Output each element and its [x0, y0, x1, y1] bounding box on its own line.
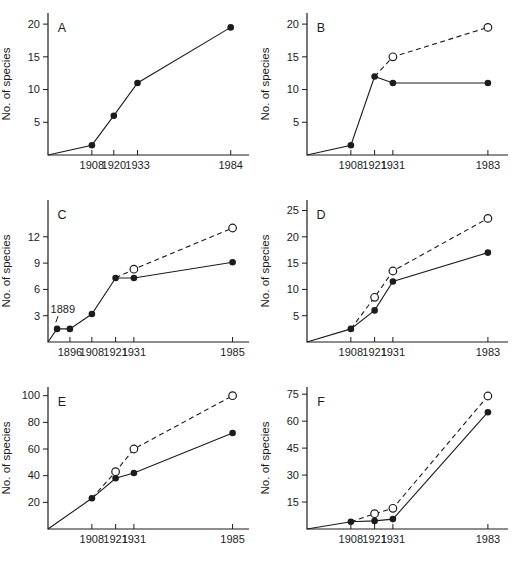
y-axis-label: No. of species	[0, 47, 12, 120]
data-point-filled	[54, 326, 61, 333]
solid-series-line	[307, 412, 488, 529]
data-point-filled	[112, 275, 119, 282]
data-point-filled	[371, 518, 378, 525]
axes	[307, 387, 508, 529]
y-tick-label: 9	[34, 257, 40, 269]
y-tick-label: 5	[292, 116, 298, 128]
x-tick-label: 1908	[338, 159, 362, 171]
data-point-filled	[389, 80, 396, 87]
data-point-filled	[484, 249, 491, 256]
x-tick-label: 1908	[338, 533, 362, 545]
axes	[307, 13, 508, 155]
y-tick-label: 15	[286, 51, 298, 63]
x-tick-label: 1985	[220, 346, 244, 358]
x-tick-label: 1983	[475, 159, 499, 171]
y-tick-label: 5	[34, 116, 40, 128]
data-point-open	[370, 510, 378, 518]
data-point-filled	[484, 409, 491, 416]
solid-series-line	[48, 262, 233, 342]
x-tick-label: 1908	[80, 346, 104, 358]
y-tick-label: 12	[28, 231, 40, 243]
x-tick-label: 1931	[380, 159, 404, 171]
data-point-filled	[89, 495, 96, 502]
data-point-filled	[131, 275, 138, 282]
panel-B-chart: 51015201908192119311983No. of speciesB	[259, 0, 517, 187]
panel-A-chart: 51015201908192019331984No. of speciesA	[0, 0, 258, 187]
panel-letter: D	[316, 208, 325, 222]
panel-letter: E	[58, 395, 66, 409]
data-point-filled	[131, 470, 138, 477]
data-point-open	[389, 53, 397, 61]
solid-series-line	[307, 77, 488, 156]
x-tick-label: 1896	[58, 346, 82, 358]
y-axis-label: No. of species	[259, 234, 271, 307]
axes	[307, 200, 508, 342]
solid-series-line	[307, 253, 488, 342]
data-point-open	[370, 294, 378, 302]
y-tick-label: 3	[34, 310, 40, 322]
x-tick-label: 1931	[380, 533, 404, 545]
data-point-filled	[371, 307, 378, 314]
y-tick-label: 45	[286, 442, 298, 454]
x-tick-label: 1984	[218, 159, 242, 171]
panel-C-cell: 3691218961908192119311985No. of speciesC…	[0, 187, 258, 374]
x-tick-label: 1933	[125, 159, 149, 171]
panel-E-cell: 204060801001908192119311985No. of specie…	[0, 374, 258, 561]
dashed-series-line	[92, 396, 233, 499]
x-tick-label: 1908	[80, 159, 104, 171]
y-tick-label: 15	[28, 51, 40, 63]
y-axis-label: No. of species	[0, 234, 12, 307]
data-point-open	[484, 24, 492, 32]
data-point-filled	[134, 80, 141, 87]
panel-D-chart: 5101520251908192119311983No. of speciesD	[259, 187, 517, 374]
six-panel-species-accumulation-figure: 51015201908192019331984No. of speciesA51…	[0, 0, 517, 561]
solid-series-line	[48, 27, 231, 155]
y-tick-label: 20	[28, 496, 40, 508]
panel-F-chart: 15304560751908192119311983No. of species…	[259, 374, 517, 561]
y-tick-label: 40	[28, 469, 40, 481]
y-tick-label: 6	[34, 283, 40, 295]
panel-letter: C	[57, 208, 66, 222]
annotation-label: 1889	[51, 303, 75, 315]
data-point-open	[229, 224, 237, 232]
panel-D-cell: 5101520251908192119311983No. of speciesD	[258, 187, 517, 374]
y-tick-label: 20	[286, 18, 298, 30]
data-point-filled	[347, 519, 354, 526]
y-tick-label: 20	[28, 18, 40, 30]
y-axis-label: No. of species	[259, 47, 271, 120]
data-point-filled	[111, 112, 118, 119]
y-tick-label: 75	[286, 388, 298, 400]
y-tick-label: 15	[286, 257, 298, 269]
x-tick-label: 1908	[80, 533, 104, 545]
data-point-open	[130, 445, 138, 453]
y-tick-label: 10	[28, 83, 40, 95]
x-tick-label: 1931	[122, 346, 146, 358]
y-axis-label: No. of species	[0, 421, 12, 494]
panel-letter: F	[317, 395, 325, 409]
panel-letter: A	[58, 21, 67, 35]
x-tick-label: 1931	[380, 346, 404, 358]
y-tick-label: 10	[286, 83, 298, 95]
y-tick-label: 5	[292, 310, 298, 322]
data-point-filled	[371, 73, 378, 80]
x-tick-label: 1983	[475, 533, 499, 545]
y-tick-label: 25	[286, 204, 298, 216]
annotation-leader-line	[56, 316, 58, 322]
data-point-open	[112, 468, 120, 476]
axes	[48, 200, 249, 342]
panel-F-cell: 15304560751908192119311983No. of species…	[258, 374, 517, 561]
data-point-open	[389, 505, 397, 513]
data-point-open	[229, 392, 237, 400]
x-tick-label: 1931	[122, 533, 146, 545]
y-tick-label: 80	[28, 416, 40, 428]
data-point-filled	[484, 80, 491, 87]
data-point-filled	[347, 326, 354, 333]
data-point-filled	[67, 326, 74, 333]
solid-series-line	[48, 433, 233, 529]
data-point-filled	[389, 516, 396, 523]
data-point-open	[389, 267, 397, 275]
y-tick-label: 60	[28, 443, 40, 455]
data-point-filled	[227, 24, 234, 31]
y-tick-label: 10	[286, 283, 298, 295]
data-point-filled	[347, 142, 354, 149]
